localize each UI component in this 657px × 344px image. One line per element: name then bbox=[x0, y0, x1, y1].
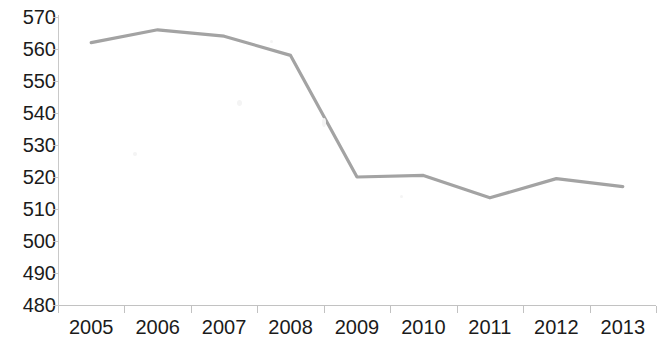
y-axis-tick-label: 510 bbox=[2, 199, 56, 219]
x-axis-tick-mark bbox=[124, 306, 125, 313]
scan-artifact bbox=[237, 100, 242, 106]
x-axis-tick-mark bbox=[590, 306, 591, 313]
x-axis-tick-label: 2010 bbox=[401, 316, 446, 338]
x-axis-tick-mark bbox=[257, 306, 258, 313]
x-axis-tick-mark bbox=[523, 306, 524, 313]
x-axis-tick-mark bbox=[390, 306, 391, 313]
y-axis-tick-label: 530 bbox=[2, 135, 56, 155]
series-line bbox=[91, 30, 623, 198]
y-axis-tick-mark bbox=[53, 49, 59, 50]
y-axis-tick-label: 560 bbox=[2, 39, 56, 59]
y-axis: 570560550540530520510500490480 bbox=[0, 0, 56, 344]
x-axis-tick-label: 2011 bbox=[468, 316, 511, 338]
y-axis-tick-label: 520 bbox=[2, 167, 56, 187]
x-axis-tick-mark bbox=[58, 306, 59, 313]
x-axis-line bbox=[58, 305, 656, 306]
scan-artifact bbox=[133, 152, 137, 156]
scan-artifact bbox=[322, 118, 326, 127]
y-axis-tick-label: 490 bbox=[2, 263, 56, 283]
y-axis-tick-label: 480 bbox=[2, 295, 56, 315]
x-axis-tick-label: 2005 bbox=[69, 316, 114, 338]
y-axis-tick-mark bbox=[53, 273, 59, 274]
x-axis-tick-label: 2006 bbox=[135, 316, 180, 338]
y-axis-tick-mark bbox=[53, 209, 59, 210]
y-axis-tick-label: 540 bbox=[2, 103, 56, 123]
y-axis-tick-mark bbox=[53, 113, 59, 114]
x-axis-tick-label: 2008 bbox=[268, 316, 313, 338]
scan-artifact bbox=[270, 40, 273, 43]
x-axis-tick-label: 2007 bbox=[202, 316, 247, 338]
x-axis-tick-mark bbox=[457, 306, 458, 313]
x-axis-tick-label: 2009 bbox=[335, 316, 380, 338]
x-axis-tick-label: 2013 bbox=[601, 316, 646, 338]
y-axis-tick-label: 550 bbox=[2, 71, 56, 91]
y-axis-tick-mark bbox=[53, 305, 59, 306]
plot-area bbox=[0, 0, 657, 344]
y-axis-line bbox=[58, 15, 59, 306]
y-axis-tick-mark bbox=[53, 17, 59, 18]
y-axis-tick-mark bbox=[53, 177, 59, 178]
y-axis-tick-label: 570 bbox=[2, 7, 56, 27]
y-axis-tick-mark bbox=[53, 81, 59, 82]
y-axis-tick-label: 500 bbox=[2, 231, 56, 251]
line-chart: 570560550540530520510500490480 200520062… bbox=[0, 0, 657, 344]
scan-artifact bbox=[400, 195, 403, 198]
y-axis-tick-mark bbox=[53, 145, 59, 146]
x-axis-tick-mark bbox=[191, 306, 192, 313]
y-axis-tick-mark bbox=[53, 241, 59, 242]
x-axis-tick-label: 2012 bbox=[534, 316, 579, 338]
x-axis-tick-mark bbox=[324, 306, 325, 313]
